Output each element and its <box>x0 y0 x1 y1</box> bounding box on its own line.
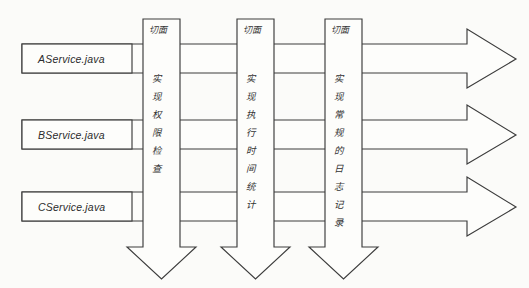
aspect-char-1-0: 实 <box>152 73 163 84</box>
aspect-char-3-1: 现 <box>334 91 345 102</box>
service-box-c[interactable]: CService.java <box>22 192 132 221</box>
aspect-title-3: 切面 <box>331 25 351 35</box>
aspect-char-3-4: 的 <box>334 145 345 156</box>
aspect-char-2-3: 行 <box>246 127 257 138</box>
aspect-char-3-0: 实 <box>334 73 345 84</box>
aop-diagram: AService.java BService.java CService.jav… <box>0 0 529 288</box>
aspect-char-2-0: 实 <box>246 73 257 84</box>
aspect-char-3-2: 常 <box>334 109 345 120</box>
service-box-a[interactable]: AService.java <box>22 44 132 73</box>
aspect-char-1-3: 限 <box>152 127 163 138</box>
service-label-a: AService.java <box>37 53 105 65</box>
service-label-b: BService.java <box>38 129 105 141</box>
aspect-char-2-4: 时 <box>246 145 257 156</box>
aspect-char-2-7: 计 <box>246 199 257 210</box>
aspect-title-1: 切面 <box>149 25 169 35</box>
aspect-char-3-8: 录 <box>334 217 345 228</box>
aspect-char-1-5: 查 <box>152 163 163 174</box>
aspect-title-2: 切面 <box>243 25 263 35</box>
aspect-char-1-2: 权 <box>152 109 163 120</box>
aspect-char-2-5: 间 <box>246 163 257 174</box>
service-box-b[interactable]: BService.java <box>22 120 132 149</box>
aspect-char-3-6: 志 <box>334 181 345 192</box>
diagram-canvas: AService.java BService.java CService.jav… <box>0 0 529 288</box>
aspect-char-3-7: 记 <box>334 199 345 210</box>
aspect-char-1-4: 检 <box>152 145 163 156</box>
aspect-char-2-2: 执 <box>246 109 256 120</box>
service-label-c: CService.java <box>38 201 105 213</box>
aspect-char-3-5: 日 <box>334 163 344 174</box>
aspect-char-2-6: 统 <box>246 181 257 192</box>
aspect-char-1-1: 现 <box>152 91 163 102</box>
aspect-char-2-1: 现 <box>246 91 257 102</box>
aspect-char-3-3: 规 <box>334 127 345 138</box>
